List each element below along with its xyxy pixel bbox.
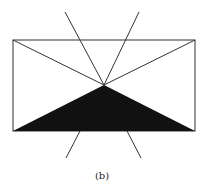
bottom-right-ray [127,131,141,158]
diagonal-left [13,40,104,85]
filled-triangle [13,85,195,131]
figure-caption: (b) [0,170,204,181]
diagonal-right [104,40,195,85]
top-right-ray [104,12,139,85]
top-left-ray [65,12,104,85]
diagram [0,0,204,185]
bottom-left-ray [66,131,80,158]
